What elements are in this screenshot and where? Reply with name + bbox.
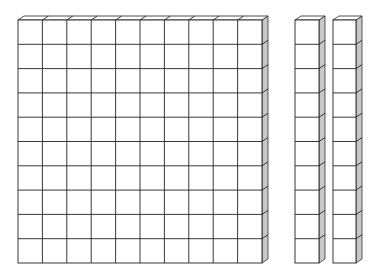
tens-rod-1 (295, 16, 325, 263)
base-ten-blocks-diagram (0, 0, 380, 275)
blocks-canvas (0, 0, 380, 275)
hundreds-flat (18, 16, 268, 263)
tens-rod-2 (333, 16, 362, 263)
top-face (295, 16, 325, 20)
